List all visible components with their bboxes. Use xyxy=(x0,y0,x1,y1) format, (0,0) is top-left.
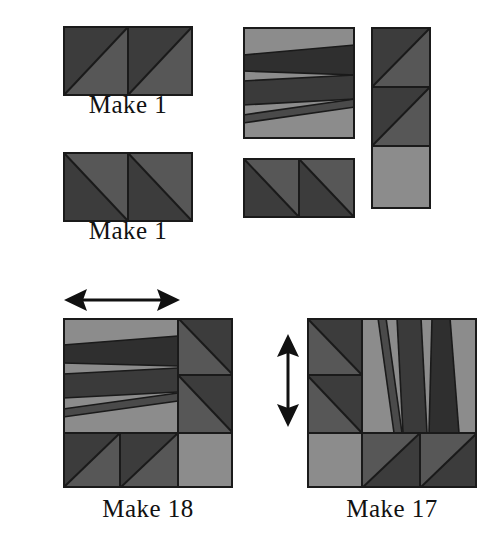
block-make-18-svg xyxy=(63,318,233,488)
unit-top-left-1 xyxy=(63,26,193,96)
block-make-18 xyxy=(63,318,233,488)
horizontal-double-arrow-icon xyxy=(63,288,181,312)
caption-top-left-1: Make 1 xyxy=(63,92,193,117)
half-square-triangle-pair xyxy=(243,158,355,218)
caption-top-left-2: Make 1 xyxy=(63,218,193,243)
vertical-double-arrow-icon xyxy=(276,333,300,428)
vertical-strip-svg xyxy=(371,27,431,209)
string-square-svg xyxy=(243,27,355,139)
hst-pair-up-svg xyxy=(63,26,193,96)
arrow-vertical-double xyxy=(276,333,300,428)
block-make-17-svg xyxy=(307,318,477,488)
arrow-horizontal-double xyxy=(63,288,181,312)
caption-make-18: Make 18 xyxy=(53,496,243,521)
hst-pair-down-svg xyxy=(63,152,193,222)
unit-top-left-2 xyxy=(63,152,193,222)
string-pieced-square xyxy=(243,27,355,139)
diagram-canvas: Make 1 Make 1 xyxy=(0,0,497,540)
vertical-strip-column xyxy=(371,27,431,209)
block-make-17 xyxy=(307,318,477,488)
hst-pair-right-svg xyxy=(243,158,355,218)
caption-make-17: Make 17 xyxy=(297,496,487,521)
